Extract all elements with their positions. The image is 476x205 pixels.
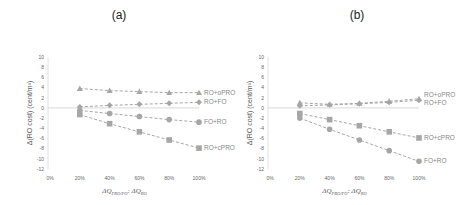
y-tick-label: 2 [261, 95, 264, 101]
y-tick-label: -10 [37, 156, 44, 162]
square-marker [416, 135, 422, 141]
chart-panel-b: (b) 1086420-2-4-6-8-10-120%20%40%60%80%1… [238, 0, 476, 205]
series-label: RO+cPRO [424, 134, 455, 141]
series-label: RO+FO [204, 98, 227, 105]
circle-marker [196, 119, 202, 125]
series-label: RO+oPRO [204, 89, 235, 96]
y-tick-label: -10 [257, 156, 264, 162]
y-axis-label: Δ(RO cost) (cent/m³) [26, 81, 34, 146]
y-tick-label: 6 [261, 74, 264, 80]
diamond-marker [136, 101, 142, 107]
x-tick-label: 0% [46, 175, 54, 181]
x-tick-label: 60% [354, 175, 365, 181]
y-tick-label: 0 [261, 105, 264, 111]
series-label: RO+oPRO [424, 91, 455, 98]
x-tick-label: 80% [164, 175, 175, 181]
circle-marker [416, 159, 422, 165]
y-tick-label: -12 [37, 166, 44, 172]
y-tick-label: 0 [41, 105, 44, 111]
circle-marker [357, 137, 363, 143]
circle-marker [166, 117, 172, 123]
line-chart-b: 1086420-2-4-6-8-10-120%20%40%60%80%100%Δ… [238, 0, 476, 205]
y-tick-label: 8 [41, 64, 44, 70]
circle-marker [137, 114, 143, 120]
y-tick-label: 4 [261, 84, 264, 90]
x-tick-label: 0% [266, 175, 274, 181]
square-marker [327, 117, 333, 123]
circle-marker [386, 148, 392, 154]
circle-marker [327, 126, 333, 132]
square-marker [77, 112, 83, 118]
series-label: RO+cPRO [204, 144, 235, 151]
diamond-marker [107, 102, 113, 108]
square-marker [137, 129, 143, 135]
y-tick-label: 10 [258, 54, 264, 60]
y-tick-label: 8 [261, 64, 264, 70]
chart-panel-a: (a) 1086420-2-4-6-8-10-120%20%40%60%80%1… [0, 0, 238, 205]
diamond-marker [386, 99, 392, 105]
y-tick-label: -8 [260, 145, 265, 151]
y-tick-label: 2 [41, 95, 44, 101]
diamond-marker [196, 99, 202, 105]
square-marker [107, 121, 113, 127]
square-marker [357, 123, 363, 129]
diamond-marker [416, 97, 422, 103]
series-label: RO+FO [424, 99, 447, 106]
series-label: FO+RO [424, 157, 447, 164]
y-tick-label: -8 [40, 145, 45, 151]
x-tick-label: 100% [193, 175, 206, 181]
x-tick-label: 20% [295, 175, 306, 181]
x-tick-label: 60% [134, 175, 145, 181]
square-marker [166, 137, 172, 143]
y-tick-label: 10 [38, 54, 44, 60]
x-tick-label: 40% [325, 175, 336, 181]
x-axis-label: ΔQPRO/FO: ΔQRO [321, 187, 367, 196]
series-ro-fo: RO+FO [297, 97, 447, 109]
y-tick-label: -6 [260, 135, 265, 141]
square-marker [196, 145, 202, 151]
y-tick-label: -12 [257, 166, 264, 172]
series-fo-ro: FO+RO [77, 108, 227, 126]
line-chart-a: 1086420-2-4-6-8-10-120%20%40%60%80%100%Δ… [0, 0, 238, 205]
series-ro-opro: RO+oPRO [77, 86, 235, 96]
y-tick-label: -4 [260, 125, 265, 131]
x-tick-label: 40% [105, 175, 116, 181]
y-tick-label: -2 [260, 115, 265, 121]
diamond-marker [327, 102, 333, 108]
y-tick-label: -6 [40, 135, 45, 141]
x-axis-label: ΔQPRO/FO: ΔQRO [101, 187, 147, 196]
diamond-marker [356, 101, 362, 107]
y-tick-label: 4 [41, 84, 44, 90]
series-label: FO+RO [204, 118, 227, 125]
x-tick-label: 80% [384, 175, 395, 181]
x-tick-label: 20% [75, 175, 86, 181]
y-tick-label: -4 [40, 125, 45, 131]
y-tick-label: -2 [40, 115, 45, 121]
square-marker [386, 129, 392, 135]
circle-marker [297, 115, 303, 121]
diamond-marker [166, 100, 172, 106]
y-axis-label: Δ(RO cost) (cent/m³) [246, 81, 254, 146]
x-tick-label: 100% [413, 175, 426, 181]
circle-marker [107, 111, 113, 117]
y-tick-label: 6 [41, 74, 44, 80]
